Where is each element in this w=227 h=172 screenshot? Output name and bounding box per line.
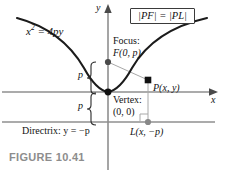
point-l-marker [145, 119, 151, 125]
y-axis [104, 4, 111, 170]
focus-point-marker [105, 59, 111, 65]
curve-equation-label: x2 = 4py [26, 24, 63, 37]
distance-relation-box: |PF| = |PL| [130, 8, 195, 24]
point-p-label: P(x, y) [153, 82, 180, 93]
focus-title-label: Focus: [113, 35, 140, 46]
focus-point-label: F(0, p) [113, 47, 141, 58]
figure-container: x2 = 4py |PF| = |PL| Focus: F(0, p) Vert… [0, 0, 227, 172]
brace-lower-p [87, 93, 96, 125]
y-axis-label: y [96, 2, 100, 13]
vertex-point-marker [105, 89, 112, 96]
brace-upper-p [87, 62, 96, 94]
vertex-coordinates-label: (0, 0) [113, 106, 135, 117]
point-p-marker [145, 77, 152, 84]
point-l-label: L(x, −p) [130, 126, 163, 137]
brace-upper-p-label: p [78, 69, 83, 80]
segment-p-to-f [108, 62, 148, 80]
vertex-title-label: Vertex: [113, 94, 142, 105]
figure-caption: FIGURE 10.41 [9, 151, 85, 163]
directrix-label: Directrix: y = −p [22, 125, 90, 136]
brace-lower-p-label: p [78, 100, 83, 111]
x-axis-label: x [211, 94, 215, 105]
